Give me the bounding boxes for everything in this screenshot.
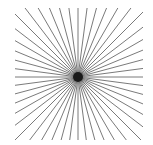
figure-root: ) <box>0 0 153 145</box>
center-hub <box>73 72 83 82</box>
starburst-chart <box>0 0 153 145</box>
